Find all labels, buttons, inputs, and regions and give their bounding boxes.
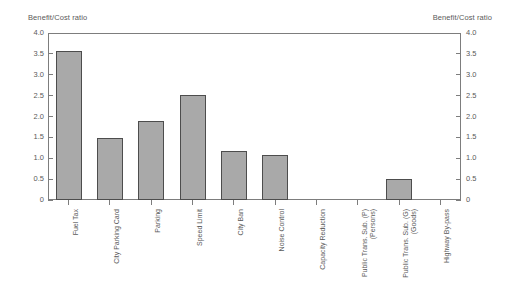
x-tick-label: Speed Limit [196, 209, 204, 246]
y-axis-title-left: Benefit/Cost ratio [28, 13, 87, 22]
y-tick-left [48, 33, 53, 34]
x-tick-label: Capacity Reduction [319, 209, 327, 270]
y-tick-right [456, 137, 461, 138]
x-tick [151, 200, 152, 205]
x-tick-label-line: (Goods) [410, 209, 418, 278]
x-tick-label-line: City Parking Card [113, 209, 120, 264]
bar [97, 138, 123, 200]
y-tick-label-right: 1.0 [466, 154, 492, 162]
y-tick-label-left: 1.5 [18, 133, 44, 141]
y-tick-right [456, 158, 461, 159]
y-tick-label-right: 0 [466, 196, 492, 204]
x-tick-label-line: Public Trans. Sub. (G) [402, 209, 409, 278]
x-tick [233, 200, 234, 205]
x-tick-label-line: Capacity Reduction [319, 209, 326, 270]
x-tick-label: Parking [154, 209, 162, 233]
y-axis-title-right: Benefit/Cost ratio [433, 13, 492, 22]
y-tick-label-left: 0.5 [18, 175, 44, 183]
y-tick-right [456, 116, 461, 117]
y-tick-right [456, 179, 461, 180]
y-tick-left [48, 53, 53, 54]
y-tick-right [456, 74, 461, 75]
y-tick-label-left: 4.0 [18, 29, 44, 37]
x-tick [357, 200, 358, 205]
bar [180, 95, 206, 200]
x-tick-label-line: (Persons) [369, 209, 377, 277]
x-tick-label: Public Trans. Sub. (P)(Persons) [361, 209, 377, 277]
x-tick-label-line: Noise Control [278, 209, 285, 251]
y-tick-left [48, 137, 53, 138]
y-tick-left [48, 95, 53, 96]
x-tick-label-line: Highway By-pass [443, 209, 450, 263]
y-tick-left [48, 158, 53, 159]
y-tick-label-right: 1.5 [466, 133, 492, 141]
y-tick-right [456, 95, 461, 96]
y-tick-label-left: 3.5 [18, 50, 44, 58]
x-tick-label: Highway By-pass [443, 209, 451, 263]
x-tick-label-line: Fuel Tax [72, 209, 79, 235]
y-tick-left [48, 116, 53, 117]
y-tick-label-left: 1.0 [18, 154, 44, 162]
bar [386, 179, 412, 200]
x-tick [316, 200, 317, 205]
x-tick [109, 200, 110, 205]
x-tick-label-line: Speed Limit [196, 209, 203, 246]
y-tick-label-right: 2.0 [466, 113, 492, 121]
x-tick-label: City Ban [237, 209, 245, 235]
y-tick-label-right: 3.5 [466, 50, 492, 58]
x-tick-label: Public Trans. Sub. (G)(Goods) [402, 209, 418, 278]
y-tick-right [456, 33, 461, 34]
x-tick [68, 200, 69, 205]
y-tick-left [48, 200, 53, 201]
x-tick [399, 200, 400, 205]
x-tick-label-line: Parking [154, 209, 161, 233]
bar [56, 51, 82, 200]
x-tick-label: Noise Control [278, 209, 286, 251]
bar [138, 121, 164, 200]
y-tick-label-right: 2.5 [466, 92, 492, 100]
bar [221, 151, 247, 200]
y-tick-label-left: 2.5 [18, 92, 44, 100]
y-tick-label-left: 3.0 [18, 71, 44, 79]
x-tick [192, 200, 193, 205]
y-tick-right [456, 53, 461, 54]
y-tick-label-right: 0.5 [466, 175, 492, 183]
x-tick-label-line: City Ban [237, 209, 244, 235]
x-tick [440, 200, 441, 205]
x-tick-label: Fuel Tax [72, 209, 80, 235]
x-tick [275, 200, 276, 205]
y-tick-left [48, 179, 53, 180]
x-tick-label-line: Public Trans. Sub. (P) [361, 209, 368, 277]
y-tick-left [48, 74, 53, 75]
x-tick-label: City Parking Card [113, 209, 121, 264]
y-tick-label-right: 3.0 [466, 71, 492, 79]
y-tick-label-right: 4.0 [466, 29, 492, 37]
benefit-cost-ratio-bar-chart: Benefit/Cost ratio Benefit/Cost ratio 4.… [0, 0, 516, 289]
y-tick-label-left: 2.0 [18, 113, 44, 121]
y-tick-right [456, 200, 461, 201]
y-tick-label-left: 0 [18, 196, 44, 204]
bar [262, 155, 288, 200]
